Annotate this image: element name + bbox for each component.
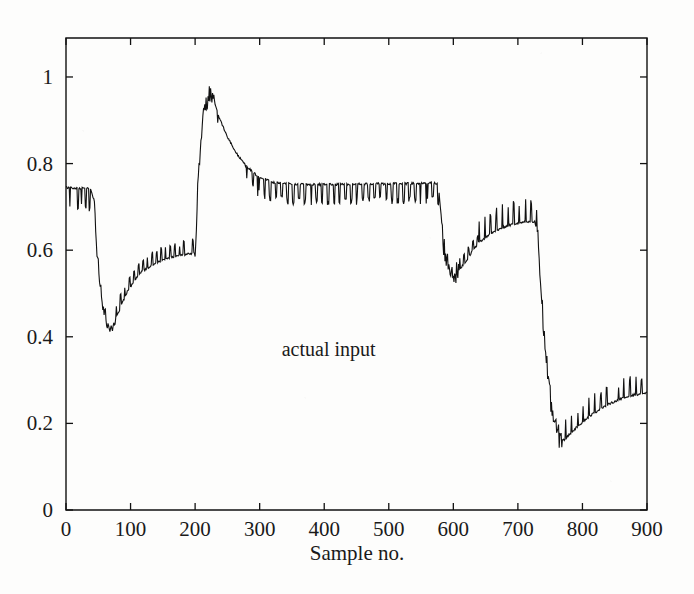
x-tick-label: 0 [61, 517, 72, 541]
x-tick-label: 400 [308, 517, 340, 541]
y-tick-label: 0 [43, 498, 54, 522]
y-tick-label: 1 [43, 65, 54, 89]
x-tick-label: 900 [631, 517, 663, 541]
y-axis-tick-labels: 00.20.40.60.81 [27, 65, 54, 522]
series-actual-input [66, 86, 647, 447]
annotation-actual-input: actual input [282, 338, 376, 361]
line-chart: 0100200300400500600700800900 00.20.40.60… [0, 0, 694, 594]
y-tick-label: 0.8 [27, 152, 53, 176]
x-axis-tick-labels: 0100200300400500600700800900 [61, 517, 663, 541]
figure-page: 0100200300400500600700800900 00.20.40.60… [0, 0, 694, 594]
x-tick-label: 500 [373, 517, 405, 541]
x-tick-label: 600 [438, 517, 470, 541]
x-axis-title: Sample no. [310, 541, 405, 565]
x-tick-label: 700 [502, 517, 534, 541]
x-tick-label: 800 [567, 517, 599, 541]
x-tick-label: 300 [244, 517, 276, 541]
y-tick-label: 0.4 [27, 325, 54, 349]
y-tick-label: 0.2 [27, 411, 53, 435]
x-tick-label: 100 [115, 517, 147, 541]
x-tick-label: 200 [179, 517, 211, 541]
y-tick-label: 0.6 [27, 238, 53, 262]
data-series-group [66, 86, 647, 447]
